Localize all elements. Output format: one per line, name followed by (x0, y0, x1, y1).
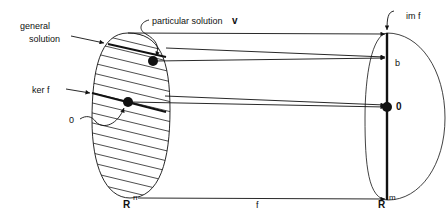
zero-domain-label: 0 (69, 115, 74, 125)
general-solution-label-line2: solution (29, 34, 60, 44)
general-solution-arrow (71, 36, 104, 43)
codomain-exponent: m (389, 193, 396, 202)
domain-exponent: n (133, 193, 137, 202)
image-pointer (387, 11, 394, 30)
particular-solution-dot (148, 56, 158, 66)
particular-solution-symbol: v (232, 15, 238, 26)
codomain-space-label: R (378, 199, 386, 210)
mapping-arrows (128, 33, 385, 199)
general-solution-label-line1: general (20, 21, 50, 31)
map-label: f (256, 200, 259, 210)
domain-space-label: R (123, 199, 131, 210)
particular-solution-label: particular solution (152, 16, 223, 26)
domain-region (80, 20, 180, 211)
kernel-label: ker f (32, 85, 50, 95)
image-zero-dot (382, 102, 392, 112)
b-label: b (395, 58, 400, 68)
zero-codomain-label: 0 (396, 101, 402, 112)
kernel-arrow (66, 89, 90, 93)
kernel-zero-dot (123, 97, 133, 107)
zero-domain-pointer (80, 108, 124, 126)
linear-map-diagram: general solution particular solution v k… (0, 0, 448, 211)
image-label: im f (406, 11, 421, 21)
